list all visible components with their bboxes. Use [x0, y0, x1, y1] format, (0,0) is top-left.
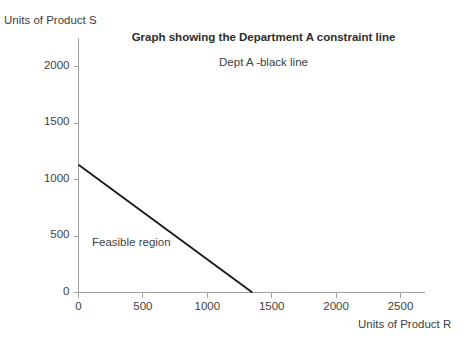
plot-area [0, 0, 469, 341]
x-tick-label: 1000 [184, 300, 230, 312]
ticks-group [74, 67, 401, 298]
y-tick-label: 0 [24, 285, 70, 297]
feasible-region-annotation: Feasible region [92, 236, 171, 248]
data-series-group [79, 165, 253, 293]
x-tick-label: 500 [120, 300, 166, 312]
y-tick-label: 2000 [24, 59, 70, 71]
x-axis-title: Units of Product R [358, 318, 451, 330]
y-tick-label: 1500 [24, 115, 70, 127]
x-tick-label: 2000 [313, 300, 359, 312]
x-tick-label: 0 [56, 300, 102, 312]
x-tick-label: 1500 [249, 300, 295, 312]
axes-group [79, 38, 426, 293]
y-tick-label: 1000 [24, 172, 70, 184]
y-tick-label: 500 [24, 228, 70, 240]
x-tick-label: 2500 [378, 300, 424, 312]
chart-figure: Units of Product S Graph showing the Dep… [0, 0, 469, 341]
constraint-line [79, 165, 253, 293]
